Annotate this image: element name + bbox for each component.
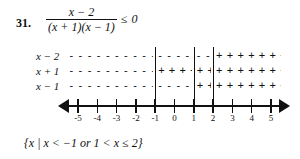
sign-segment-row2-seg2: + + [197, 80, 211, 91]
worksheet-page: 31. x − 2 (x + 1)(x − 1) ≤ 0 x − 2 x + 1… [0, 0, 300, 159]
tick--4 [97, 99, 99, 113]
tick-0 [174, 99, 176, 113]
tick-label--3: -3 [109, 113, 125, 123]
tick-2 [212, 99, 214, 113]
sign-segment-row1-seg3: + + + + + + + + [216, 65, 280, 76]
fraction-denominator: (x + 1)(x − 1) [46, 20, 117, 33]
fraction: x − 2 (x + 1)(x − 1) [46, 6, 117, 33]
tick-3 [232, 99, 234, 113]
tick-4 [251, 99, 253, 113]
tick-label-4: 4 [244, 113, 260, 123]
sign-segment-row0-seg2: - - - [197, 50, 211, 61]
right-side-value: 0 [131, 12, 137, 27]
solution-set: {x | x < −1 or 1 < x ≤ 2} [24, 136, 142, 151]
tick-label-2: 2 [205, 113, 221, 123]
sign-segment-row0-seg0: - - - - - - - - - - - - [69, 50, 153, 61]
tick--3 [116, 99, 118, 113]
tick--5 [77, 99, 79, 113]
relation-symbol: ≤ [121, 12, 128, 27]
tick-label-5: 5 [263, 113, 279, 123]
tick--2 [135, 99, 137, 113]
sign-segment-row1-seg2: + + [197, 65, 211, 76]
right-arrowhead-icon [279, 99, 290, 113]
sign-segment-row2-seg3: + + + + + + + + [216, 80, 280, 91]
tick-label--1: -1 [147, 113, 163, 123]
tick-label--2: -2 [128, 113, 144, 123]
tick-1 [193, 99, 195, 113]
sign-segment-row0-seg1: - - - - - - [158, 50, 192, 61]
sign-segment-row2-seg0: - - - - - - - - - - - - [69, 80, 153, 91]
sign-segment-row1-seg0: - - - - - - - - - - - - [69, 65, 153, 76]
tick-5 [270, 99, 272, 113]
sign-segment-row1-seg1: + + + + [158, 65, 192, 76]
problem-number: 31. [16, 16, 31, 31]
tick-label--5: -5 [70, 113, 86, 123]
sign-segment-row2-seg1: - - - - - - [158, 80, 192, 91]
sign-segment-row0-seg3: + + + + + + + + [216, 50, 280, 61]
tick-label-3: 3 [224, 113, 240, 123]
tick-label-0: 0 [167, 113, 183, 123]
tick-label--4: -4 [89, 113, 105, 123]
tick-label-1: 1 [186, 113, 202, 123]
inequality-expression: x − 2 (x + 1)(x − 1) ≤ 0 [46, 6, 137, 33]
tick--1 [154, 99, 156, 113]
fraction-numerator: x − 2 [65, 6, 98, 19]
